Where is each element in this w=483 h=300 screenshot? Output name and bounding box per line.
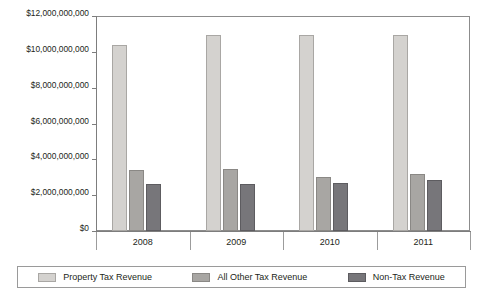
y-axis-tick-label: $0 [80, 224, 89, 233]
y-axis-tick-mark [92, 159, 96, 160]
y-axis-tick-mark [92, 88, 96, 89]
legend-swatch-icon [38, 273, 56, 282]
bar-group [299, 16, 348, 231]
x-axis-separator [470, 232, 471, 250]
legend-item[interactable]: Non-Tax Revenue [348, 272, 445, 283]
bar [333, 183, 348, 231]
bar [393, 35, 408, 231]
legend-item[interactable]: All Other Tax Revenue [192, 272, 307, 283]
y-axis-tick-mark [92, 52, 96, 53]
bar-chart: $0$2,000,000,000$4,000,000,000$6,000,000… [0, 0, 483, 300]
legend-item-label: Property Tax Revenue [63, 272, 152, 283]
bar [299, 35, 314, 231]
y-axis-tick-label: $8,000,000,000 [31, 81, 89, 90]
legend-swatch-icon [348, 273, 366, 282]
y-axis-tick-label: $12,000,000,000 [26, 9, 89, 18]
x-axis-category-label: 2010 [283, 237, 377, 248]
bar [410, 174, 425, 231]
bar [146, 184, 161, 231]
y-axis-tick-mark [92, 16, 96, 17]
y-axis-tick-label: $4,000,000,000 [31, 152, 89, 161]
legend-item-label: Non-Tax Revenue [373, 272, 445, 283]
legend-swatch-icon [192, 273, 210, 282]
y-axis-line [96, 16, 97, 232]
y-axis-tick-mark [92, 124, 96, 125]
bar-group [112, 16, 161, 231]
bar [240, 184, 255, 231]
bar [316, 177, 331, 231]
bar-group [206, 16, 255, 231]
y-axis-tick-label: $2,000,000,000 [31, 188, 89, 197]
y-axis-tick-mark [92, 195, 96, 196]
bar [427, 180, 442, 231]
bar [112, 45, 127, 231]
x-axis-category-label: 2011 [377, 237, 471, 248]
x-axis-category-label: 2009 [190, 237, 284, 248]
x-axis-category-label: 2008 [96, 237, 190, 248]
bar [206, 35, 221, 231]
legend-item-label: All Other Tax Revenue [217, 272, 307, 283]
bar-group [393, 16, 442, 231]
chart-legend: Property Tax RevenueAll Other Tax Revenu… [17, 266, 466, 288]
y-axis-tick-label: $10,000,000,000 [26, 45, 89, 54]
bar [223, 169, 238, 231]
x-axis-separator [96, 232, 97, 250]
bar [129, 170, 144, 231]
legend-item[interactable]: Property Tax Revenue [38, 272, 152, 283]
y-axis-tick-label: $6,000,000,000 [31, 117, 89, 126]
